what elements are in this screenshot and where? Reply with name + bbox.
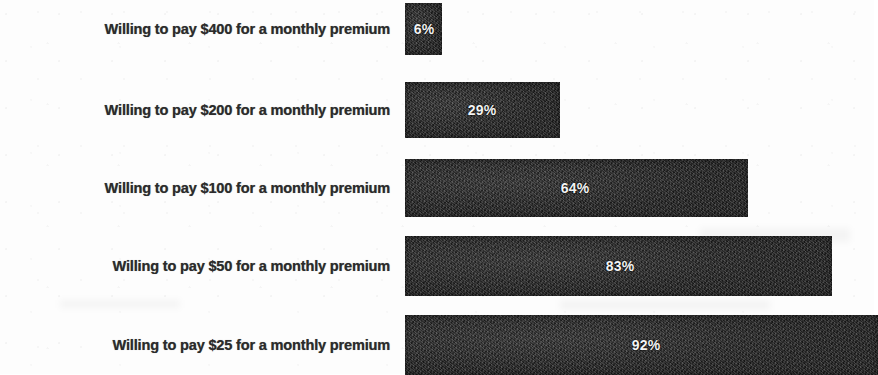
- bar-value-label: 6%: [414, 21, 435, 37]
- scan-smudge: [560, 300, 770, 310]
- category-label: Willing to pay $400 for a monthly premiu…: [105, 21, 390, 37]
- category-label: Willing to pay $25 for a monthly premium: [113, 337, 390, 353]
- bar-value-label: 83%: [606, 258, 635, 274]
- bar-value-label: 92%: [632, 337, 661, 353]
- scan-smudge: [60, 300, 180, 308]
- bar-value-label: 64%: [561, 180, 590, 196]
- category-label: Willing to pay $100 for a monthly premiu…: [105, 180, 390, 196]
- category-label: Willing to pay $200 for a monthly premiu…: [105, 102, 390, 118]
- bar-value-label: 29%: [468, 102, 497, 118]
- category-label: Willing to pay $50 for a monthly premium: [113, 258, 390, 274]
